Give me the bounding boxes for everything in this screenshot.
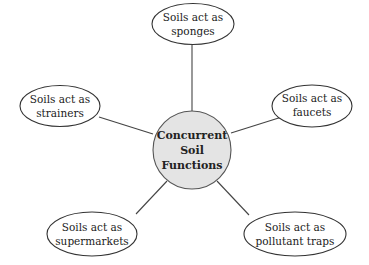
node-pollutant-traps-line-1: Soils act as xyxy=(265,221,325,233)
node-strainers-line-1: Soils act as xyxy=(30,93,90,105)
node-supermarkets-ellipse xyxy=(47,212,137,256)
node-faucets-line-2: faucets xyxy=(293,106,332,118)
soil-functions-diagram: Concurrent Soil Functions Soils act as s… xyxy=(0,0,369,265)
node-supermarkets: Soils act as supermarkets xyxy=(47,212,137,256)
node-sponges-line-1: Soils act as xyxy=(163,11,223,23)
hub-label-line-1: Concurrent xyxy=(157,129,228,142)
node-pollutant-traps-line-2: pollutant traps xyxy=(256,235,335,247)
hub-node: Concurrent Soil Functions xyxy=(153,111,231,189)
node-sponges-ellipse xyxy=(152,4,234,45)
node-strainers: Soils act as strainers xyxy=(20,86,100,127)
connector-strainers xyxy=(99,117,153,134)
node-sponges: Soils act as sponges xyxy=(152,4,234,45)
node-faucets: Soils act as faucets xyxy=(272,85,352,127)
connector-supermarkets xyxy=(136,181,167,214)
node-faucets-line-1: Soils act as xyxy=(282,92,342,104)
node-strainers-line-2: strainers xyxy=(36,107,84,119)
node-sponges-line-2: sponges xyxy=(171,25,215,37)
hub-label-line-2: Soil xyxy=(180,144,204,157)
node-strainers-ellipse xyxy=(20,86,100,127)
node-supermarkets-line-1: Soils act as xyxy=(62,221,122,233)
node-pollutant-traps-ellipse xyxy=(244,212,346,256)
node-supermarkets-line-2: supermarkets xyxy=(55,235,129,247)
connector-pollutant-traps xyxy=(217,181,249,215)
hub-label-line-3: Functions xyxy=(161,159,222,172)
connector-faucets xyxy=(231,116,285,133)
node-pollutant-traps: Soils act as pollutant traps xyxy=(244,212,346,256)
